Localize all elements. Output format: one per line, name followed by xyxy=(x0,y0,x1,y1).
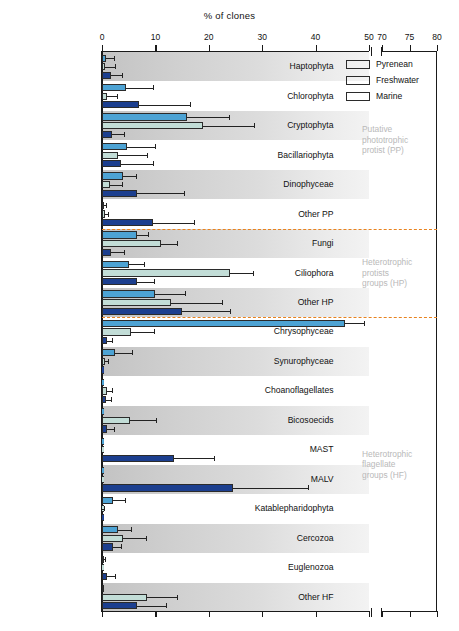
group-separator-pp xyxy=(102,229,437,230)
error-bar-cap xyxy=(254,123,255,128)
error-bar-cap xyxy=(148,232,149,237)
chart-row: Chrysophyceae xyxy=(102,317,437,346)
group-separator-hp xyxy=(102,317,437,318)
error-bar-cap xyxy=(117,94,118,99)
category-label: Ciliophora xyxy=(295,268,334,278)
error-bar-cap xyxy=(115,64,116,69)
error-bar-cap xyxy=(166,603,167,608)
error-bar-cap xyxy=(108,359,109,364)
bar-pyrenean xyxy=(102,585,104,592)
x-tick-label-80: 80 xyxy=(432,32,441,42)
error-bar xyxy=(130,420,157,421)
error-bar xyxy=(174,458,214,459)
bar-marine xyxy=(102,602,137,609)
error-bar-cap xyxy=(154,279,155,284)
error-bar xyxy=(111,75,122,76)
error-bar-cap xyxy=(132,350,133,355)
error-bar-cap xyxy=(115,574,116,579)
error-bar-cap xyxy=(112,338,113,343)
error-bar xyxy=(161,244,177,245)
x-tick-75 xyxy=(410,45,411,51)
bar-marine xyxy=(102,484,233,491)
bar-marine xyxy=(102,219,153,226)
legend-swatch-freshwater xyxy=(346,76,370,85)
legend-item-pyrenean: Pyrenean xyxy=(346,58,458,72)
error-bar-cap xyxy=(364,321,365,326)
category-label: Chlorophyta xyxy=(287,91,333,101)
x-tick-label-70: 70 xyxy=(377,32,386,42)
bar-pyrenean xyxy=(102,379,104,386)
error-bar-cap xyxy=(177,241,178,246)
category-label: Cryptophyta xyxy=(287,120,333,130)
error-bar-cap xyxy=(124,250,125,255)
error-bar-cap xyxy=(154,329,155,334)
bar-pyrenean xyxy=(102,526,118,533)
error-bar xyxy=(105,67,115,68)
legend-item-freshwater: Freshwater xyxy=(346,74,458,88)
bar-freshwater xyxy=(102,269,230,276)
category-label: Choanoflagellates xyxy=(265,385,334,395)
category-label: Bicosoecids xyxy=(288,415,334,425)
group-annotation-hp: Heterotrophic protists groups (HP) xyxy=(362,257,412,289)
error-bar xyxy=(345,323,364,324)
bar-pyrenean xyxy=(102,349,115,356)
x-tick-label-20: 20 xyxy=(204,32,213,42)
legend-label-marine: Marine xyxy=(376,91,402,101)
bar-freshwater xyxy=(102,181,110,188)
bar-pyrenean xyxy=(102,261,129,268)
category-label: MAST xyxy=(310,444,334,454)
error-bar xyxy=(123,176,135,177)
bar-freshwater xyxy=(102,594,147,601)
error-bar-cap xyxy=(185,291,186,296)
legend-swatch-pyrenean xyxy=(346,60,370,69)
error-bar-cap xyxy=(153,161,154,166)
category-label: MALV xyxy=(311,474,334,484)
error-bar-cap xyxy=(308,485,309,490)
bar-pyrenean xyxy=(102,172,123,179)
bar-marine xyxy=(102,455,174,462)
bar-pyrenean xyxy=(102,497,113,504)
chart-axis-title: % of clones xyxy=(0,10,459,21)
chart-row: Other HF xyxy=(102,583,437,612)
error-bar xyxy=(110,185,122,186)
error-bar-cap xyxy=(111,397,112,402)
error-bar xyxy=(153,223,194,224)
error-bar-cap xyxy=(112,388,113,393)
error-bar-cap xyxy=(114,56,115,61)
bar-pyrenean xyxy=(102,438,104,445)
legend-label-pyrenean: Pyrenean xyxy=(376,59,413,69)
bar-freshwater xyxy=(102,299,171,306)
error-bar xyxy=(107,96,117,97)
error-bar xyxy=(115,353,132,354)
error-bar-cap xyxy=(125,498,126,503)
bar-marine xyxy=(102,131,112,138)
chart-row: Cercozoa xyxy=(102,524,437,553)
error-bar-cap xyxy=(136,174,137,179)
error-bar xyxy=(139,105,190,106)
error-bar-cap xyxy=(155,144,156,149)
chart-row: Synurophyceae xyxy=(102,347,437,376)
error-bar xyxy=(127,147,156,148)
x-tick-30 xyxy=(262,45,263,51)
error-bar-cap xyxy=(122,182,123,187)
category-label: Katablepharidophyta xyxy=(255,503,334,513)
legend-swatch-marine xyxy=(346,92,370,101)
bar-pyrenean xyxy=(102,231,137,238)
error-bar-cap xyxy=(121,544,122,549)
error-bar xyxy=(123,538,145,539)
bar-marine xyxy=(102,366,104,373)
error-bar-cap xyxy=(114,427,115,432)
bar-freshwater xyxy=(102,122,203,129)
category-label: Other HF xyxy=(298,592,333,602)
x-tick-label-50: 50 xyxy=(364,32,373,42)
bar-pyrenean xyxy=(102,113,187,120)
bar-pyrenean xyxy=(102,84,126,91)
x-tick-20 xyxy=(209,45,210,51)
bar-marine xyxy=(102,278,137,285)
bar-pyrenean xyxy=(102,320,345,327)
category-label: Chrysophyceae xyxy=(274,326,334,336)
error-bar-cap xyxy=(190,102,191,107)
bar-marine xyxy=(102,308,182,315)
error-bar-cap xyxy=(146,536,147,541)
category-label: Dinophyceae xyxy=(283,179,333,189)
